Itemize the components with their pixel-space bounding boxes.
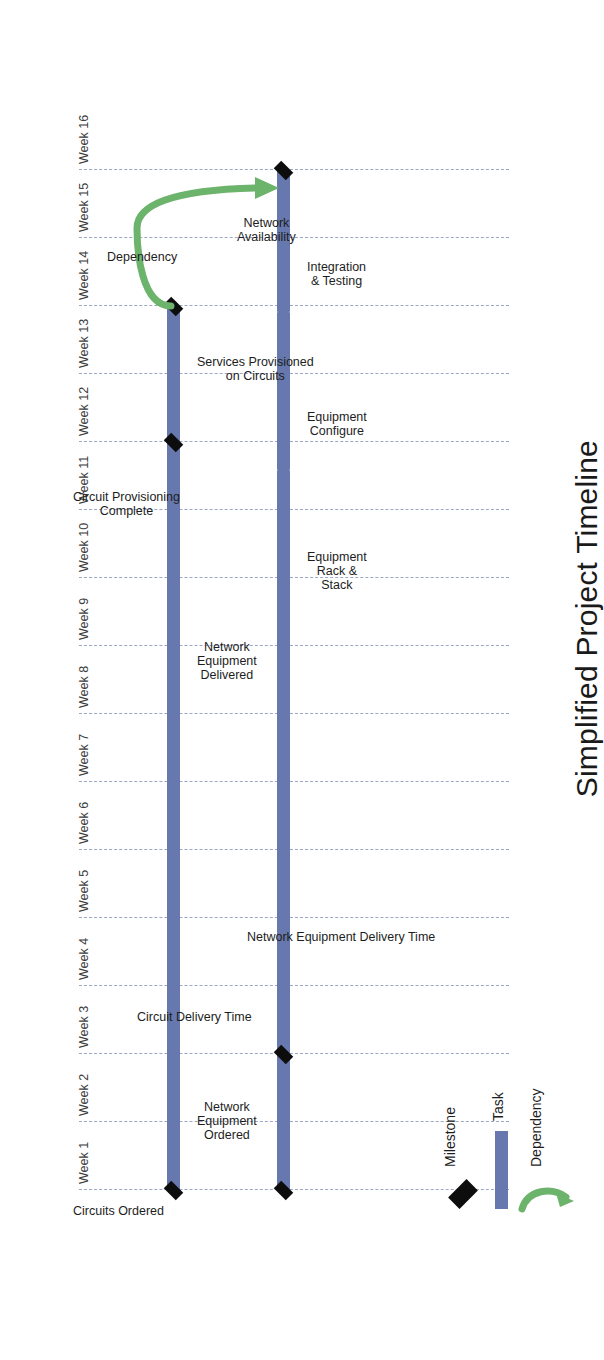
label-circuits-ordered: Circuits Ordered xyxy=(73,1204,164,1218)
legend-label-task: Task xyxy=(490,1092,506,1121)
dependency-arrow-icon xyxy=(518,1171,578,1215)
label-network-availability: Network Availability xyxy=(237,216,296,244)
axis-tick-week-6: Week 6 xyxy=(77,802,91,844)
label-dependency: Dependency xyxy=(107,250,177,264)
axis-tick-week-13: Week 13 xyxy=(77,319,91,368)
axis-tick-week-12: Week 12 xyxy=(77,387,91,436)
task-bar-equipment-configure[interactable] xyxy=(277,312,290,470)
label-integration-and-testing: Integration & Testing xyxy=(307,260,366,288)
axis-tick-week-7: Week 7 xyxy=(77,734,91,776)
axis-tick-week-3: Week 3 xyxy=(77,1006,91,1048)
label-network-equipment-ordered: Network Equipment Ordered xyxy=(197,1100,257,1142)
label-equipment-configure: Equipment Configure xyxy=(307,410,367,438)
axis-tick-week-14: Week 14 xyxy=(77,251,91,300)
label-circuit-provisioning-complete: Circuit Provisioning Complete xyxy=(73,490,180,518)
legend-label-dependency: Dependency xyxy=(528,1088,544,1167)
legend: Milestone Task Dependency xyxy=(432,1035,572,1225)
task-bar-icon xyxy=(495,1131,508,1209)
label-equipment-rack-and-stack: Equipment Rack & Stack xyxy=(307,550,367,592)
page-title: Simplified Project Timeline xyxy=(570,440,604,797)
label-network-equipment-delivery-time: Network Equipment Delivery Time xyxy=(247,930,435,944)
legend-label-milestone: Milestone xyxy=(442,1107,458,1167)
task-bar-network-equipment-delivery-time[interactable] xyxy=(277,1054,290,1190)
task-bar-circuit-delivery-time[interactable] xyxy=(167,442,180,1190)
task-bar-equipment-rack-and-stack[interactable] xyxy=(277,470,290,1054)
axis-tick-week-8: Week 8 xyxy=(77,666,91,708)
axis-tick-week-9: Week 9 xyxy=(77,598,91,640)
label-network-equipment-delivered: Network Equipment Delivered xyxy=(197,640,257,682)
axis-tick-week-4: Week 4 xyxy=(77,938,91,980)
axis-tick-week-5: Week 5 xyxy=(77,870,91,912)
milestone-network-equipment-ordered[interactable] xyxy=(274,1181,293,1200)
milestone-circuits-ordered[interactable] xyxy=(164,1181,183,1200)
label-circuit-delivery-time: Circuit Delivery Time xyxy=(137,1010,252,1024)
axis-tick-week-1: Week 1 xyxy=(77,1142,91,1184)
axis-tick-week-16: Week 16 xyxy=(77,115,91,164)
axis-tick-week-15: Week 15 xyxy=(77,183,91,232)
axis-tick-week-2: Week 2 xyxy=(77,1074,91,1116)
milestone-diamond-icon xyxy=(448,1179,478,1209)
axis-tick-week-10: Week 10 xyxy=(77,523,91,572)
task-bar-services-provisioned[interactable] xyxy=(167,306,180,442)
label-services-provisioned: Services Provisioned on Circuits xyxy=(197,355,314,383)
